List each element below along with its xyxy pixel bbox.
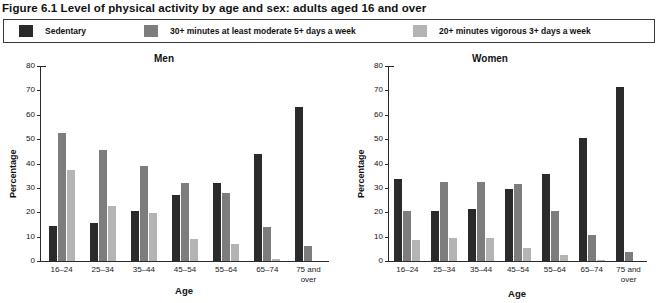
bar-group: [82, 66, 123, 261]
y-axis-tick: [385, 188, 389, 189]
bar: [542, 174, 550, 261]
bar-group: [500, 66, 537, 261]
bar-group: [206, 66, 247, 261]
chart-panel-men: Men Percentage 16–2425–3435–4445–5455–64…: [0, 46, 340, 303]
bar-group: [463, 66, 500, 261]
y-axis-tick: [385, 66, 389, 67]
figure-container: Figure 6.1 Level of physical activity by…: [0, 0, 660, 303]
bar: [67, 170, 75, 261]
y-axis-tick: [385, 164, 389, 165]
y-axis-tick-label: 10: [365, 233, 383, 241]
charts-row: Men Percentage 16–2425–3435–4445–5455–64…: [0, 46, 660, 303]
chart-title-men: Men: [14, 53, 314, 64]
bar: [431, 211, 439, 261]
bar: [579, 138, 587, 261]
legend-label-vigorous: 20+ minutes vigorous 3+ days a week: [439, 26, 591, 36]
bar: [172, 195, 180, 261]
y-axis-tick-label: 30: [17, 184, 35, 192]
legend-item-vigorous: 20+ minutes vigorous 3+ days a week: [413, 20, 591, 42]
y-axis-tick: [37, 212, 41, 213]
y-axis-tick: [37, 237, 41, 238]
y-axis-tick-label: 70: [17, 86, 35, 94]
bar: [149, 213, 157, 261]
x-axis-tick-label-line2: over: [610, 275, 647, 285]
legend-swatch-sedentary: [19, 25, 33, 37]
bar: [616, 87, 624, 261]
legend-label-sedentary: Sedentary: [45, 26, 86, 36]
bar: [181, 183, 189, 261]
y-axis-tick: [37, 66, 41, 67]
y-axis-tick-label: 80: [17, 62, 35, 70]
y-axis-tick: [37, 261, 41, 262]
bar-group: [41, 66, 82, 261]
bar: [403, 211, 411, 261]
bar: [304, 246, 312, 261]
chart-panel-women: Women Percentage 16–2425–3435–4445–5455–…: [340, 46, 660, 303]
y-axis-tick: [385, 139, 389, 140]
legend-label-moderate: 30+ minutes at least moderate 5+ days a …: [170, 26, 356, 36]
y-axis-tick: [385, 115, 389, 116]
bar: [58, 133, 66, 261]
y-axis-tick: [37, 90, 41, 91]
legend-item-sedentary: Sedentary: [19, 20, 86, 42]
bar-groups-women: [389, 66, 647, 261]
bar: [231, 244, 239, 261]
y-axis-tick-label: 40: [17, 160, 35, 168]
bar: [551, 211, 559, 261]
bar: [90, 223, 98, 261]
y-axis-tick: [37, 188, 41, 189]
bar: [263, 227, 271, 261]
bar: [254, 154, 262, 261]
y-axis-tick: [37, 115, 41, 116]
x-axis-tick-label-line2: over: [288, 275, 329, 285]
y-axis-tick-label: 20: [365, 208, 383, 216]
x-axis-label-women: Age: [388, 288, 646, 299]
x-axis-label-men: Age: [40, 285, 328, 296]
y-axis-tick-label: 10: [17, 233, 35, 241]
y-axis-tick: [37, 139, 41, 140]
bar: [108, 206, 116, 261]
bar: [625, 252, 633, 261]
legend-swatch-vigorous: [413, 25, 427, 37]
bar: [486, 238, 494, 261]
legend-item-moderate: 30+ minutes at least moderate 5+ days a …: [144, 20, 356, 42]
figure-title: Figure 6.1 Level of physical activity by…: [2, 2, 426, 14]
bar: [213, 183, 221, 261]
y-axis-tick-label: 60: [365, 111, 383, 119]
bar-group: [288, 66, 329, 261]
bar-group: [123, 66, 164, 261]
bar: [505, 189, 513, 261]
y-axis-tick-label: 20: [17, 208, 35, 216]
y-axis-tick-label: 70: [365, 86, 383, 94]
bar: [222, 193, 230, 261]
bar: [588, 235, 596, 261]
bar: [140, 166, 148, 261]
y-axis-tick-label: 50: [17, 135, 35, 143]
bar: [523, 248, 531, 261]
y-axis-tick-label: 80: [365, 62, 383, 70]
bar-group: [164, 66, 205, 261]
bar: [394, 179, 402, 261]
legend-swatch-moderate: [144, 25, 158, 37]
y-axis-tick: [385, 261, 389, 262]
plot-area-men: 16–2425–3435–4445–5455–6465–7475 andover…: [40, 66, 329, 262]
bar: [295, 107, 303, 261]
bar: [477, 182, 485, 261]
y-axis-tick: [385, 212, 389, 213]
bar-groups-men: [41, 66, 329, 261]
y-axis-tick: [37, 164, 41, 165]
bar-group: [536, 66, 573, 261]
y-axis-tick-label: 0: [365, 257, 383, 265]
chart-title-women: Women: [350, 53, 630, 64]
bar: [468, 209, 476, 261]
y-axis-tick-label: 60: [17, 111, 35, 119]
bar-group: [610, 66, 647, 261]
bar: [449, 238, 457, 261]
bar: [514, 184, 522, 261]
bar: [49, 226, 57, 261]
bar-group: [573, 66, 610, 261]
y-axis-tick: [385, 237, 389, 238]
bar-group: [389, 66, 426, 261]
y-axis-tick-label: 40: [365, 160, 383, 168]
bar: [190, 239, 198, 261]
